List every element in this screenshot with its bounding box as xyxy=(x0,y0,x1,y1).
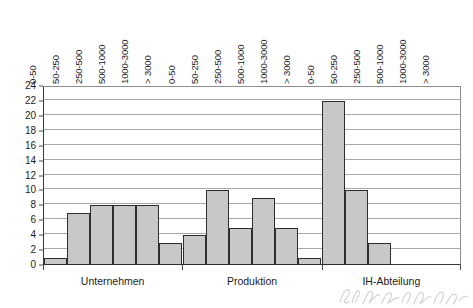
category-tick-label: > 3000 xyxy=(414,61,437,84)
category-tick-label: 250-500 xyxy=(206,61,229,84)
bar xyxy=(322,101,345,265)
bar xyxy=(275,228,298,265)
bar xyxy=(136,205,159,265)
category-tick-label: 50-250 xyxy=(322,61,345,84)
bar xyxy=(345,190,368,265)
category-tick-label: 500-1000 xyxy=(90,61,113,84)
category-tick-label: 500-1000 xyxy=(368,61,391,84)
category-tick-label: 50-250 xyxy=(44,61,67,84)
bar xyxy=(229,228,252,265)
x-tick-mark xyxy=(460,265,461,270)
bar xyxy=(298,258,321,265)
bar-series-layer xyxy=(43,86,461,265)
y-tick-label: 6 xyxy=(30,215,36,225)
y-tick-label: 24 xyxy=(25,81,36,91)
x-axis: UnternehmenProduktionIH-Abteilung xyxy=(43,265,461,308)
x-tick-mark xyxy=(182,265,183,270)
category-label-axis: 0-5050-250250-500500-10001000-3000> 3000… xyxy=(0,0,473,86)
bar xyxy=(113,205,136,265)
bar xyxy=(67,213,90,265)
y-tick-label: 14 xyxy=(25,156,36,166)
category-tick-label: 50-250 xyxy=(183,61,206,84)
y-tick-label: 16 xyxy=(25,141,36,151)
category-tick-label: 250-500 xyxy=(67,61,90,84)
group-label: IH-Abteilung xyxy=(362,275,420,287)
bar xyxy=(44,258,67,265)
bar xyxy=(90,205,113,265)
group-label: Produktion xyxy=(227,275,277,287)
y-tick-label: 12 xyxy=(25,171,36,181)
category-tick-label: 1000-3000 xyxy=(113,61,136,84)
y-tick-label: 4 xyxy=(30,230,36,240)
x-tick-mark xyxy=(43,265,44,270)
bar xyxy=(159,243,182,265)
bar xyxy=(252,198,275,265)
bar xyxy=(206,190,229,265)
group-label: Unternehmen xyxy=(81,275,145,287)
category-tick-label: > 3000 xyxy=(136,61,159,84)
bar xyxy=(368,243,391,265)
y-tick-label: 18 xyxy=(25,126,36,136)
y-tick-label: 0 xyxy=(30,260,36,270)
category-tick-label: 1000-3000 xyxy=(391,61,414,84)
y-tick-label: 10 xyxy=(25,185,36,195)
y-tick-label: 2 xyxy=(30,245,36,255)
category-tick-label: 500-1000 xyxy=(229,61,252,84)
bar-chart: 0-5050-250250-500500-10001000-3000> 3000… xyxy=(0,0,473,308)
y-tick-label: 20 xyxy=(25,111,36,121)
bar xyxy=(183,235,206,265)
y-tick-label: 22 xyxy=(25,96,36,106)
category-tick-label: 250-500 xyxy=(345,61,368,84)
category-tick-label: 0-50 xyxy=(299,61,322,84)
x-tick-mark xyxy=(322,265,323,270)
category-tick-label: > 3000 xyxy=(275,61,298,84)
category-tick-label: 0-50 xyxy=(160,61,183,84)
category-tick-label: 1000-3000 xyxy=(252,61,275,84)
y-tick-label: 8 xyxy=(30,200,36,210)
y-axis: 024681012141618202224 xyxy=(0,86,43,265)
